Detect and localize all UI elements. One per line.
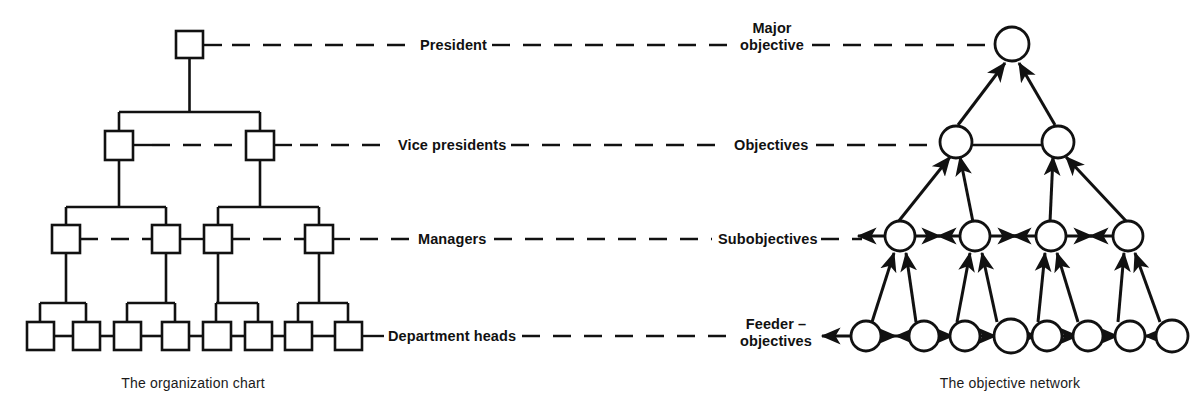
edge-feeder6-to-sub3 bbox=[1057, 253, 1078, 322]
edge-sub4-to-obj2 bbox=[1066, 157, 1127, 222]
network-edges-objectives-to-major bbox=[958, 63, 1055, 125]
network-node-feeder-objective-4[interactable] bbox=[994, 319, 1028, 353]
network-node-subobjective-4[interactable] bbox=[1113, 221, 1143, 251]
leader-row-department-heads: Department heads Feeder – objectives bbox=[362, 316, 812, 349]
org-node-department-head-6[interactable] bbox=[245, 322, 272, 350]
leader-row-managers: Managers Subobjectives bbox=[80, 231, 862, 247]
edge-feeder5-to-sub3 bbox=[1038, 253, 1045, 322]
diagram-canvas: President Major objective Vice president… bbox=[0, 0, 1196, 414]
network-node-feeder-objective-3[interactable] bbox=[950, 321, 980, 351]
row-label-subobjectives: Subobjectives bbox=[718, 231, 818, 247]
network-edges-sub-to-objectives bbox=[898, 157, 1127, 222]
network-node-feeder-objective-2[interactable] bbox=[909, 321, 939, 351]
edge-sub1-to-obj1 bbox=[898, 157, 950, 222]
org-node-vice-president-2[interactable] bbox=[246, 131, 274, 160]
network-node-feeder-objective-8[interactable] bbox=[1156, 320, 1188, 352]
network-node-subobjective-1[interactable] bbox=[885, 221, 915, 251]
network-node-major-objective[interactable] bbox=[995, 27, 1029, 61]
org-node-manager-3[interactable] bbox=[204, 225, 232, 253]
edge-sub3-to-obj2 bbox=[1050, 157, 1053, 222]
row-label-feeder-objectives-line1: Feeder – bbox=[746, 316, 806, 332]
edge-feeder7-to-sub4 bbox=[1118, 253, 1124, 322]
row-label-department-heads: Department heads bbox=[388, 328, 516, 344]
network-node-feeder-objective-7[interactable] bbox=[1115, 321, 1145, 351]
network-node-objective-2[interactable] bbox=[1042, 126, 1074, 158]
org-node-vice-president-1[interactable] bbox=[105, 131, 133, 160]
objective-network-panel bbox=[822, 27, 1188, 353]
edge-obj2-to-major bbox=[1019, 63, 1055, 125]
network-node-objective-1[interactable] bbox=[940, 126, 972, 158]
org-node-department-head-7[interactable] bbox=[285, 322, 312, 350]
row-label-major-objective-line1: Major bbox=[752, 20, 791, 36]
edge-feeder8-to-sub4 bbox=[1135, 253, 1160, 322]
org-node-manager-1[interactable] bbox=[52, 225, 80, 253]
network-node-feeder-objective-5[interactable] bbox=[1032, 321, 1062, 351]
org-node-department-head-3[interactable] bbox=[114, 322, 141, 350]
row-label-major-objective-line2: objective bbox=[740, 37, 804, 53]
org-node-department-head-8[interactable] bbox=[335, 322, 362, 350]
network-node-feeder-objective-1[interactable] bbox=[851, 321, 881, 351]
edge-obj1-to-major bbox=[958, 63, 1005, 125]
org-node-manager-2[interactable] bbox=[152, 225, 180, 253]
edge-feeder2-to-sub1 bbox=[906, 253, 916, 322]
row-label-objectives: Objectives bbox=[734, 137, 808, 153]
edge-feeder4-to-sub2 bbox=[982, 253, 997, 322]
edge-feeder1-to-sub1 bbox=[872, 253, 894, 322]
leader-row-president: President Major objective bbox=[203, 20, 995, 53]
org-node-president[interactable] bbox=[176, 31, 203, 58]
network-node-subobjective-2[interactable] bbox=[960, 221, 990, 251]
org-node-department-head-1[interactable] bbox=[27, 322, 54, 350]
network-node-feeder-objective-6[interactable] bbox=[1073, 321, 1103, 351]
caption-objective-network: The objective network bbox=[940, 375, 1081, 391]
network-edges-feeder-to-sub bbox=[872, 253, 1160, 322]
org-connector-lines bbox=[40, 58, 348, 336]
org-node-department-head-2[interactable] bbox=[73, 322, 100, 350]
row-label-president: President bbox=[420, 37, 487, 53]
organization-chart-panel bbox=[27, 31, 362, 350]
org-node-department-head-4[interactable] bbox=[162, 322, 189, 350]
row-label-managers: Managers bbox=[418, 231, 487, 247]
row-label-vice-presidents: Vice presidents bbox=[398, 137, 506, 153]
network-node-subobjective-3[interactable] bbox=[1036, 221, 1066, 251]
row-label-feeder-objectives-line2: objectives bbox=[740, 333, 812, 349]
caption-organization-chart: The organization chart bbox=[121, 375, 265, 391]
figure-root: President Major objective Vice president… bbox=[0, 0, 1196, 414]
edge-feeder3-to-sub2 bbox=[957, 253, 970, 322]
org-node-manager-4[interactable] bbox=[305, 225, 333, 253]
org-node-department-head-5[interactable] bbox=[203, 322, 231, 350]
edge-sub2-to-obj1 bbox=[960, 157, 973, 222]
